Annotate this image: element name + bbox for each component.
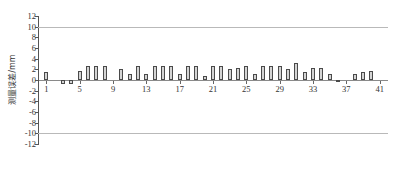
x-axis-tick-mark (346, 81, 347, 84)
measurement-error-bar-chart: 测量误差/mm 121086420-2-4-6-8-10-12 15913172… (0, 0, 396, 175)
x-axis-tick-labels: 1591317212529333741 (38, 0, 388, 175)
x-axis-tick-label: 13 (137, 85, 155, 94)
x-axis-tick-mark (313, 81, 314, 84)
x-axis-tick-label: 5 (71, 85, 89, 94)
x-axis-tick-mark (180, 81, 181, 84)
x-axis-tick-label: 17 (171, 85, 189, 94)
x-axis-tick-mark (213, 81, 214, 84)
x-axis-tick-label: 29 (271, 85, 289, 94)
x-axis-tick-label: 21 (204, 85, 222, 94)
x-axis-tick-label: 1 (37, 85, 55, 94)
x-axis-tick-mark (380, 81, 381, 84)
x-axis-tick-mark (80, 81, 81, 84)
x-axis-tick-label: 9 (104, 85, 122, 94)
x-axis-tick-mark (146, 81, 147, 84)
x-axis-tick-mark (113, 81, 114, 84)
x-axis-tick-label: 25 (237, 85, 255, 94)
x-axis-tick-mark (246, 81, 247, 84)
x-axis-tick-mark (46, 81, 47, 84)
x-axis-tick-label: 33 (304, 85, 322, 94)
x-axis-tick-label: 41 (371, 85, 389, 94)
x-axis-tick-label: 37 (337, 85, 355, 94)
x-axis-tick-mark (280, 81, 281, 84)
y-axis-title-text: 测量误差/mm (6, 25, 17, 135)
